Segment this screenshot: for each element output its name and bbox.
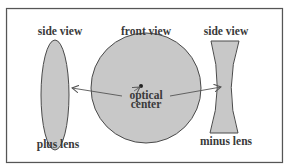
minus-side-view-label: side view [204, 25, 249, 37]
lens-diagram: side view front view side view plus lens… [0, 0, 288, 165]
plus-side-view-label: side view [38, 25, 83, 37]
front-view-lens-shape [91, 33, 201, 143]
plus-lens-shape [41, 40, 69, 150]
front-view-label: front view [121, 25, 172, 37]
optical-center-label-line2: center [131, 98, 162, 110]
plus-lens-label: plus lens [37, 138, 80, 151]
minus-lens-label: minus lens [200, 135, 253, 147]
